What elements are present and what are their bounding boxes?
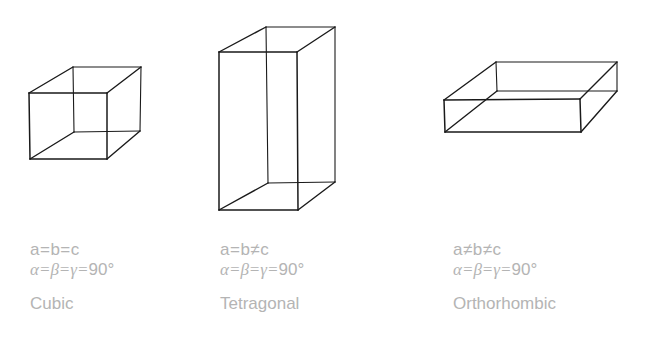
tetragonal-label-block: a=b≠c α=β=γ=90° Tetragonal [220,240,304,314]
orthorhombic-angle-value: 90° [512,260,538,279]
tetragonal-axis-relation: a=b≠c [220,240,304,260]
cubic-angle-relation: α=β=γ=90° [30,260,114,280]
orthorhombic-system-name: Orthorhombic [453,294,556,314]
orthorhombic-axis-relation: a≠b≠c [453,240,556,260]
orthorhombic-box-drawing [444,62,617,132]
cubic-system-name: Cubic [30,294,114,314]
tetragonal-box-drawing [219,27,335,210]
cubic-angle-value: 90° [89,260,115,279]
tetragonal-angle-symbols: α=β=γ= [220,260,279,279]
tetragonal-system-name: Tetragonal [220,294,304,314]
cubic-angle-symbols: α=β=γ= [30,260,89,279]
cubic-box-drawing [29,67,141,159]
cubic-label-block: a=b=c α=β=γ=90° Cubic [30,240,114,314]
tetragonal-angle-value: 90° [279,260,305,279]
orthorhombic-angle-relation: α=β=γ=90° [453,260,556,280]
tetragonal-angle-relation: α=β=γ=90° [220,260,304,280]
orthorhombic-label-block: a≠b≠c α=β=γ=90° Orthorhombic [453,240,556,314]
orthorhombic-angle-symbols: α=β=γ= [453,260,512,279]
cubic-axis-relation: a=b=c [30,240,114,260]
